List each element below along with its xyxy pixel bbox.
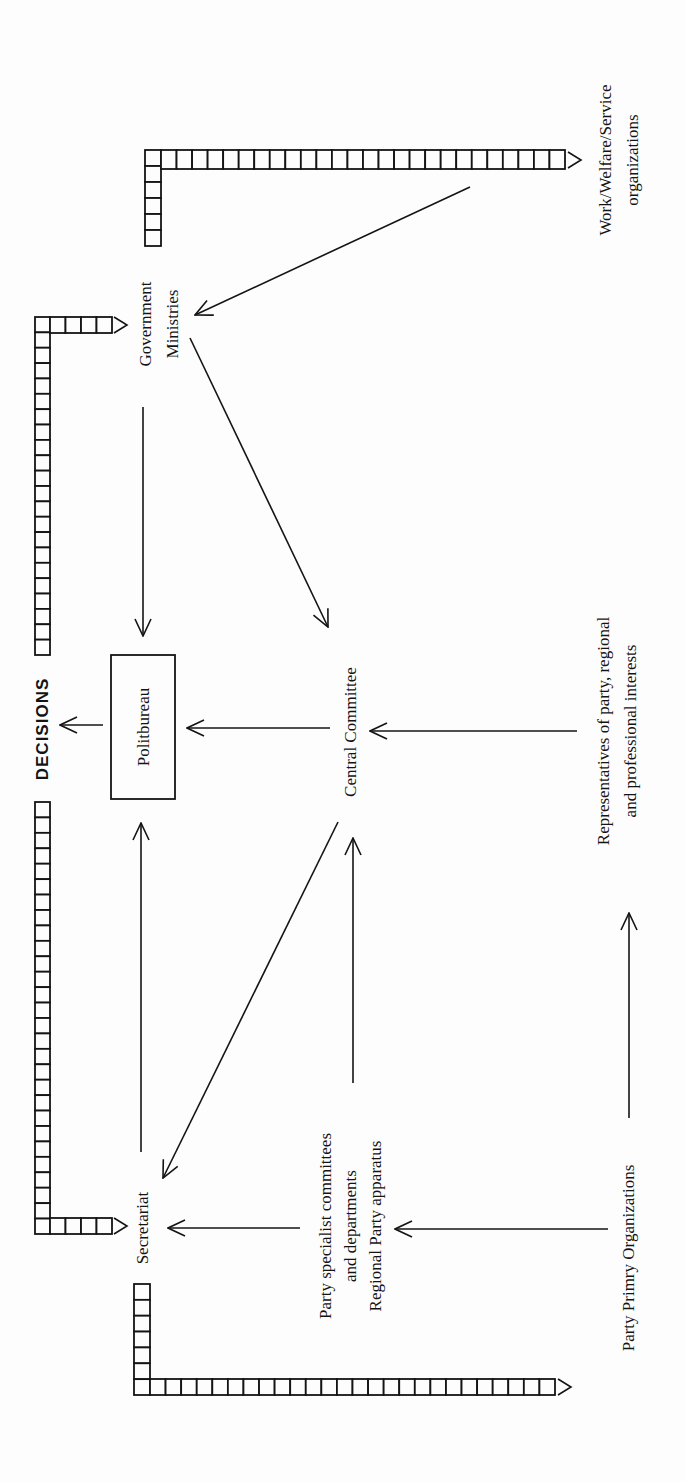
party-primary-feedback-bar	[134, 1284, 571, 1395]
work-welfare-feedback-bar	[145, 150, 581, 246]
party-primary-label: Party Primry Organizations	[619, 1165, 638, 1352]
decisions-label: DECISIONS	[33, 678, 52, 781]
party-specialist-line3: Regional Party apparatus	[366, 1141, 385, 1312]
party-specialist-line2: and departments	[341, 1170, 360, 1282]
party-specialist-line1: Party specialist committees	[316, 1133, 335, 1319]
arrow-work-welfare-to-govt	[195, 187, 470, 315]
central-committee-label: Central Committee	[341, 667, 360, 797]
secretariat-label: Secretariat	[133, 1191, 152, 1264]
work-welfare-line2: organizations	[623, 114, 642, 205]
work-welfare-line1: Work/Welfare/Service	[596, 84, 615, 235]
government-ministries-line2: Ministries	[163, 290, 182, 359]
political-decision-flow-diagram: DECISIONS Politbureau Government Ministr…	[0, 0, 686, 1482]
government-ministries-line1: Government	[136, 281, 155, 366]
representatives-line1: Representatives of party, regional	[594, 617, 613, 846]
arrow-govt-to-central-committee	[190, 338, 328, 627]
representatives-line2: and professional interests	[621, 645, 640, 818]
arrow-central-committee-to-secretariat	[163, 822, 338, 1178]
politbureau-label: Politbureau	[134, 687, 153, 766]
